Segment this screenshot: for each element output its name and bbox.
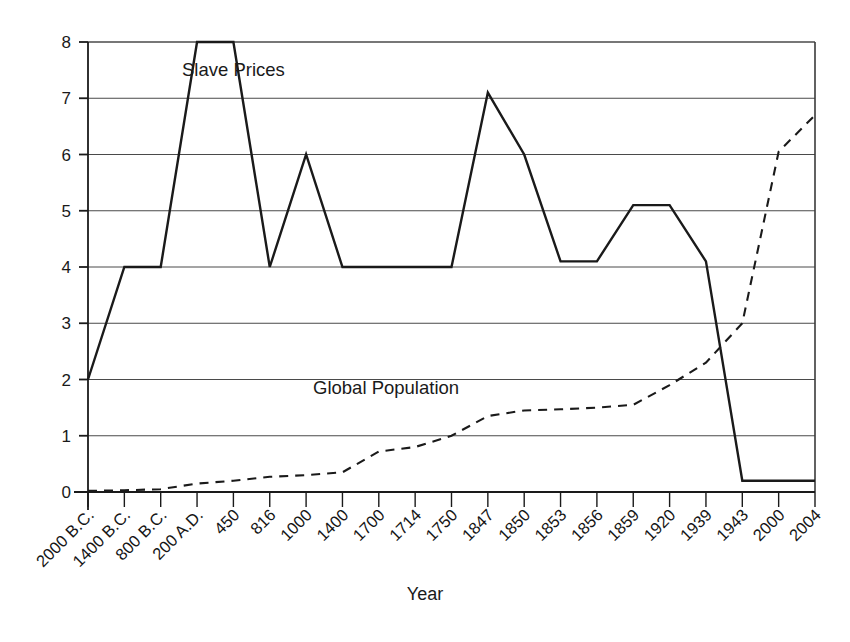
x-axis-title: Year: [407, 584, 443, 604]
y-axis-tick-label: 1: [62, 427, 71, 446]
chart-canvas: 012345678 2000 B.C.1400 B.C.800 B.C.200 …: [0, 0, 850, 642]
y-axis-tick-label: 4: [62, 258, 71, 277]
slave-prices-population-chart: 012345678 2000 B.C.1400 B.C.800 B.C.200 …: [0, 0, 850, 642]
y-axis-tick-label: 0: [62, 483, 71, 502]
y-axis-tick-label: 7: [62, 89, 71, 108]
y-axis-tick-label: 6: [62, 146, 71, 165]
series-annotation-slave-prices: Slave Prices: [182, 59, 285, 80]
series-annotation-global-population: Global Population: [313, 377, 459, 398]
y-axis-tick-label: 2: [62, 371, 71, 390]
y-axis-tick-label: 3: [62, 314, 71, 333]
y-axis-tick-label: 8: [62, 33, 71, 52]
y-axis-tick-label: 5: [62, 202, 71, 221]
